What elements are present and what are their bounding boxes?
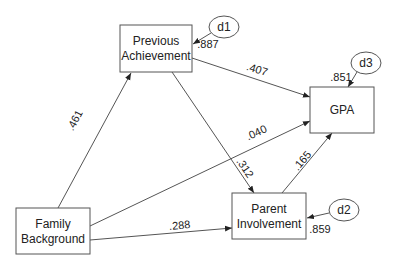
disturbance-label: d1 (217, 20, 231, 34)
path-pa-to-pi (172, 72, 254, 193)
coef-pa-to-gpa: .407 (245, 60, 269, 78)
disturbance-d1: d1 (209, 16, 239, 38)
node-previous-achievement: Previous Achievement (120, 25, 192, 72)
path-diagram: Previous Achievement GPA Family Backgrou… (0, 0, 401, 265)
node-label: GPA (330, 103, 354, 117)
coef-d1: .887 (197, 38, 218, 50)
path-fb-to-pa (58, 73, 131, 208)
node-label: Previous (133, 34, 180, 48)
disturbance-label: d3 (359, 56, 373, 70)
disturbance-d2: d2 (329, 199, 359, 221)
path-fb-to-pi (90, 228, 232, 240)
node-label: Background (21, 232, 85, 246)
coef-fb-to-pi: .288 (168, 218, 190, 232)
node-family-background: Family Background (16, 208, 90, 254)
path-d2-to-pi (307, 213, 329, 218)
coef-fb-to-pa: .461 (64, 108, 85, 133)
coef-pa-to-pi: .312 (234, 156, 256, 180)
coef-d3: .851 (330, 71, 351, 83)
coef-d2: .859 (309, 223, 330, 235)
node-label: Parent (251, 202, 287, 216)
node-label: Achievement (121, 49, 191, 63)
disturbance-d3: d3 (351, 52, 381, 74)
node-gpa: GPA (310, 87, 374, 133)
node-label: Involvement (237, 217, 302, 231)
disturbance-label: d2 (337, 203, 351, 217)
coef-pi-to-gpa: .165 (290, 148, 313, 172)
node-label: Family (35, 217, 70, 231)
coef-fb-to-gpa: .040 (244, 122, 268, 142)
node-parent-involvement: Parent Involvement (232, 193, 306, 239)
